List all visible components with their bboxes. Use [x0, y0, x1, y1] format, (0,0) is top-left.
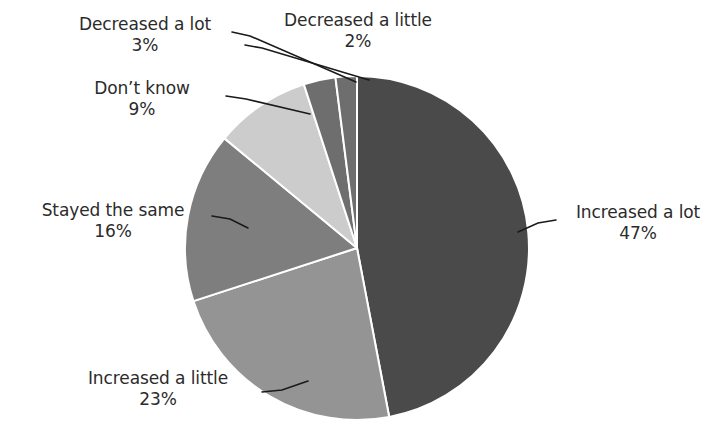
slice-label-percent: 9%	[62, 99, 222, 120]
slice-label-increased-a-little: Increased a little 23%	[58, 368, 258, 411]
slice-label-percent: 16%	[18, 221, 208, 242]
slice-label-name: Don’t know	[62, 78, 222, 99]
slice-label-name: Decreased a little	[268, 10, 448, 31]
slice-label-decreased-a-little: Decreased a little 2%	[268, 10, 448, 53]
pie-slice-increased-a-lot[interactable]	[357, 76, 529, 417]
slice-label-name: Increased a lot	[562, 202, 714, 223]
slice-label-percent: 47%	[562, 223, 714, 244]
slice-label-percent: 23%	[58, 389, 258, 410]
slice-label-decreased-a-lot: Decreased a lot 3%	[60, 14, 230, 57]
pie-chart: Decreased a lot 3% Decreased a little 2%…	[0, 0, 714, 443]
slice-label-percent: 2%	[268, 31, 448, 52]
slice-label-stayed-the-same: Stayed the same 16%	[18, 200, 208, 243]
slice-label-name: Decreased a lot	[60, 14, 230, 35]
slice-label-dont-know: Don’t know 9%	[62, 78, 222, 121]
slice-label-percent: 3%	[60, 35, 230, 56]
slice-label-name: Stayed the same	[18, 200, 208, 221]
slice-label-increased-a-lot: Increased a lot 47%	[562, 202, 714, 245]
slice-label-name: Increased a little	[58, 368, 258, 389]
